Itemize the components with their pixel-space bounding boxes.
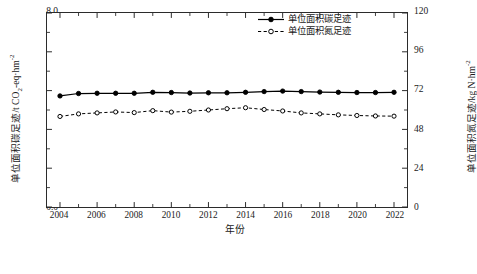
y-axis-right-title: 单位面积氮足迹/kg N·hm-2 (463, 19, 476, 215)
x-axis-title: 年份 (0, 225, 470, 235)
x-axis-tick-label: 2004 (39, 211, 79, 220)
x-axis-tick-label: 2016 (263, 211, 303, 220)
x-axis-tick-label: 2018 (300, 211, 340, 220)
plot-svg (47, 13, 407, 207)
x-axis-tick-label: 2010 (151, 211, 191, 220)
y-axis-right-tick-label: 120 (414, 7, 454, 17)
y-axis-right-superscript: -2 (464, 60, 472, 66)
legend-item-nitrogen: 单位面积氮足迹 (258, 26, 351, 37)
y-axis-right-title-text: 单位面积氮足迹/kg N·hm (466, 66, 477, 173)
x-axis-tick-label: 2022 (375, 211, 415, 220)
y-axis-right-tick-label: 48 (414, 125, 454, 135)
x-axis-tick-label: 2020 (338, 211, 378, 220)
legend-label-carbon: 单位面积碳足迹 (288, 14, 351, 25)
plot-area (46, 12, 408, 208)
x-axis-tick-label: 2008 (114, 211, 154, 220)
y-axis-right-tick-label: 0 (414, 203, 454, 213)
y-axis-right-tick-label: 24 (414, 164, 454, 174)
x-axis-tick-label: 2012 (188, 211, 228, 220)
legend-item-carbon: 单位面积碳足迹 (258, 14, 351, 25)
y-axis-right-tick-label: 72 (414, 85, 454, 95)
legend-key-solid-line-icon (258, 14, 284, 25)
y-axis-left-title-mid: -eq·hm (10, 60, 21, 88)
legend-label-nitrogen: 单位面积氮足迹 (288, 26, 351, 37)
y-axis-right-tick-label: 96 (414, 46, 454, 56)
legend-key-dashed-line-icon (258, 26, 284, 37)
y-axis-left-superscript: -2 (8, 54, 16, 60)
x-axis-tick-label: 2006 (76, 211, 116, 220)
legend: 单位面积碳足迹 单位面积氮足迹 (258, 14, 351, 38)
x-axis-tick-label: 2014 (226, 211, 266, 220)
